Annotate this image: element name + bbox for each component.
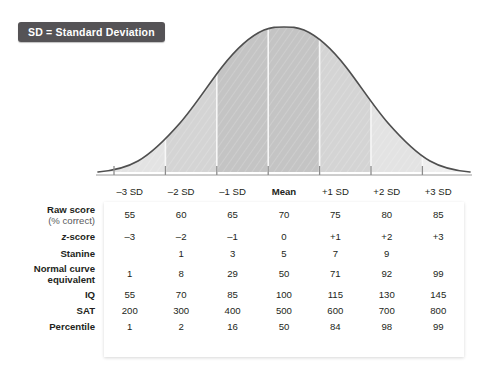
cell-sat-minus2sd: 300 — [155, 303, 206, 319]
row-label-percentile: Percentile — [0, 319, 104, 335]
axis-label-row: –3 SD –2 SD –1 SD Mean +1 SD +2 SD +3 SD — [104, 182, 464, 202]
axis-tick-label-plus3sd: +3 SD — [413, 182, 464, 202]
table-row: Stanine 1 3 5 7 9 — [0, 246, 464, 261]
cell-z-score-minus1sd: –1 — [207, 228, 258, 246]
cell-raw-score-plus2sd: 80 — [361, 202, 412, 228]
cell-stanine-minus2sd: 1 — [155, 246, 206, 261]
cell-percentile-minus1sd: 16 — [207, 319, 258, 335]
curve-bands — [92, 8, 474, 183]
cell-stanine-plus2sd: 9 — [361, 246, 412, 261]
table-row: IQ 55 70 85 100 115 130 145 — [0, 287, 464, 303]
row-sublabel-text: (% correct) — [0, 215, 95, 227]
cell-nce-minus3sd: 1 — [104, 261, 155, 287]
table-row: z-score –3 –2 –1 0 +1 +2 +3 — [0, 228, 464, 246]
cell-nce-plus3sd: 99 — [412, 261, 464, 287]
row-label-raw-score: Raw score(% correct) — [0, 202, 104, 228]
cell-sat-plus1sd: 600 — [310, 303, 361, 319]
cell-sat-plus2sd: 700 — [361, 303, 412, 319]
cell-percentile-mean: 50 — [258, 319, 309, 335]
normal-distribution-figure: SD = Standard Deviation — [0, 0, 482, 374]
cell-nce-minus1sd: 29 — [207, 261, 258, 287]
score-table: Raw score(% correct) 55 60 65 70 75 80 8… — [0, 202, 464, 335]
axis-tick-label-mean: Mean — [258, 182, 309, 202]
cell-iq-minus1sd: 85 — [207, 287, 258, 303]
cell-z-score-minus2sd: –2 — [155, 228, 206, 246]
cell-percentile-plus2sd: 98 — [361, 319, 412, 335]
table-row: Normal curveequivalent 1 8 29 50 71 92 9… — [0, 261, 464, 287]
cell-raw-score-minus1sd: 65 — [207, 202, 258, 228]
axis-tick-label-minus2sd: –2 SD — [155, 182, 206, 202]
cell-iq-minus3sd: 55 — [104, 287, 155, 303]
cell-z-score-mean: 0 — [258, 228, 309, 246]
cell-raw-score-minus3sd: 55 — [104, 202, 155, 228]
cell-sat-minus3sd: 200 — [104, 303, 155, 319]
cell-sat-plus3sd: 800 — [412, 303, 464, 319]
cell-sat-minus1sd: 400 — [207, 303, 258, 319]
cell-raw-score-mean: 70 — [258, 202, 309, 228]
row-label-text: Normal curve — [34, 263, 95, 274]
cell-stanine-plus1sd: 7 — [310, 246, 361, 261]
cell-iq-plus3sd: 145 — [412, 287, 464, 303]
cell-iq-plus2sd: 130 — [361, 287, 412, 303]
bell-curve-plot — [0, 8, 482, 183]
axis-tick-label-plus2sd: +2 SD — [361, 182, 412, 202]
axis-tick-label-minus3sd: –3 SD — [104, 182, 155, 202]
cell-stanine-mean: 5 — [258, 246, 309, 261]
row-label-sat: SAT — [0, 303, 104, 319]
table-row: Raw score(% correct) 55 60 65 70 75 80 8… — [0, 202, 464, 228]
score-table-wrap: Raw score(% correct) 55 60 65 70 75 80 8… — [0, 202, 482, 357]
cell-raw-score-minus2sd: 60 — [155, 202, 206, 228]
row-label-iq: IQ — [0, 287, 104, 303]
cell-iq-minus2sd: 70 — [155, 287, 206, 303]
row-label-z-score: z-score — [0, 228, 104, 246]
cell-z-score-plus1sd: +1 — [310, 228, 361, 246]
cell-raw-score-plus1sd: 75 — [310, 202, 361, 228]
cell-nce-plus1sd: 71 — [310, 261, 361, 287]
row-label-text: Raw score — [47, 204, 95, 215]
table-row: SAT 200 300 400 500 600 700 800 — [0, 303, 464, 319]
cell-percentile-plus3sd: 99 — [412, 319, 464, 335]
cell-nce-mean: 50 — [258, 261, 309, 287]
cell-iq-plus1sd: 115 — [310, 287, 361, 303]
row-sublabel-text: equivalent — [0, 274, 95, 286]
cell-iq-mean: 100 — [258, 287, 309, 303]
cell-z-score-plus3sd: +3 — [412, 228, 464, 246]
cell-percentile-minus2sd: 2 — [155, 319, 206, 335]
table-row: Percentile 1 2 16 50 84 98 99 — [0, 319, 464, 335]
axis-tick-label-plus1sd: +1 SD — [310, 182, 361, 202]
cell-percentile-plus1sd: 84 — [310, 319, 361, 335]
row-label-text: -score — [66, 231, 95, 242]
cell-stanine-minus1sd: 3 — [207, 246, 258, 261]
row-label-stanine: Stanine — [0, 246, 104, 261]
cell-z-score-plus2sd: +2 — [361, 228, 412, 246]
cell-nce-minus2sd: 8 — [155, 261, 206, 287]
cell-percentile-minus3sd: 1 — [104, 319, 155, 335]
cell-sat-mean: 500 — [258, 303, 309, 319]
axis-tick-label-minus1sd: –1 SD — [207, 182, 258, 202]
row-label-normal-curve-equivalent: Normal curveequivalent — [0, 261, 104, 287]
cell-z-score-minus3sd: –3 — [104, 228, 155, 246]
cell-stanine-minus3sd — [104, 246, 155, 261]
cell-raw-score-plus3sd: 85 — [412, 202, 464, 228]
cell-nce-plus2sd: 92 — [361, 261, 412, 287]
cell-stanine-plus3sd — [412, 246, 464, 261]
